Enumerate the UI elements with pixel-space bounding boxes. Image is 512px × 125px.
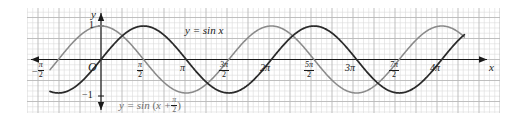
trig-graph-figure: y x O 1 −1 −π2 π2 π 3π2 2π 5π2 3π 7π2 4π…	[0, 0, 512, 125]
x-tick-fraction: π2	[38, 61, 44, 79]
y-axis-arrow-up	[98, 13, 104, 21]
x-tick-fraction: 3π2	[219, 61, 229, 79]
fraction-denominator: 2	[171, 106, 177, 114]
fraction-denominator: 2	[219, 71, 229, 79]
y-tick-label-neg1: −1	[82, 90, 93, 100]
curve-annotation-sin-shifted: y = sin (x +π2)	[119, 97, 181, 115]
x-tick-label-half-pi: π2	[137, 62, 143, 80]
annotation-fraction: π2	[171, 96, 177, 114]
x-tick-label-seven-half-pi: 7π2	[389, 62, 399, 80]
fraction-numerator: 5π	[304, 61, 314, 69]
x-tick-label-five-half-pi: 5π2	[304, 62, 314, 80]
x-axis-arrow-right	[479, 56, 487, 62]
x-tick-label-three-half-pi: 3π2	[219, 62, 229, 80]
annotation-prefix: y = sin	[119, 99, 150, 111]
fraction-numerator: π	[38, 61, 44, 69]
x-tick-label-pi: π	[180, 63, 185, 73]
x-tick-label-two-pi: 2π	[260, 63, 270, 73]
grid	[27, 8, 500, 113]
fraction-numerator: 7π	[389, 61, 399, 69]
fraction-denominator: 2	[304, 71, 314, 79]
y-tick-label-1: 1	[89, 20, 94, 30]
x-tick-label-four-pi: 4π	[430, 63, 440, 73]
annotation-inner: x +	[156, 99, 171, 111]
x-tick-fraction: 7π2	[389, 61, 399, 79]
fraction-numerator: π	[171, 96, 177, 104]
fraction-denominator: 2	[389, 71, 399, 79]
x-tick-fraction: π2	[137, 61, 143, 79]
minor-gridlines	[27, 8, 500, 113]
annotation-paren-close: )	[177, 99, 181, 111]
curve-annotation-sin: y = sin x	[185, 25, 223, 36]
origin-label: O	[88, 61, 97, 73]
fraction-denominator: 2	[38, 71, 44, 79]
x-tick-label-neg-half-pi: −π2	[32, 62, 44, 80]
fraction-denominator: 2	[137, 71, 143, 79]
x-tick-fraction: 5π2	[304, 61, 314, 79]
fraction-numerator: 3π	[219, 61, 229, 69]
y-axis-arrow-down	[98, 102, 104, 110]
fraction-numerator: π	[137, 61, 143, 69]
x-tick-label-three-pi: 3π	[345, 63, 355, 73]
x-axis-label: x	[489, 62, 494, 73]
